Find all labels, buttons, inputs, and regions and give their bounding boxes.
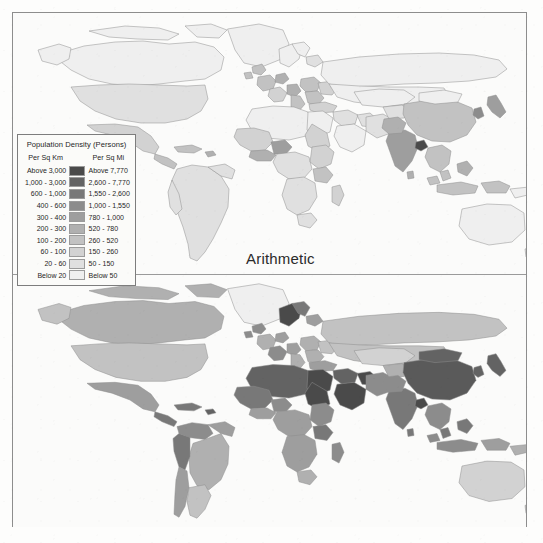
legend-value-per-sq-mi: 1,000 - 1,550	[85, 202, 131, 209]
legend-color-swatch	[69, 235, 84, 245]
legend-color-swatch	[69, 259, 84, 269]
legend-value-per-sq-mi: 260 - 520	[85, 237, 131, 244]
figure-frame: Arithmetic	[12, 12, 527, 527]
legend-row: 200 - 300520 - 780	[22, 223, 131, 235]
legend-value-per-sq-km: 20 - 60	[22, 260, 69, 267]
legend-row: 1,000 - 3,0002,600 - 7,770	[22, 177, 131, 189]
legend-value-per-sq-mi: 780 - 1,000	[85, 214, 131, 221]
legend-value-per-sq-km: 1,000 - 3,000	[22, 179, 69, 186]
legend-value-per-sq-km: 200 - 300	[22, 225, 69, 232]
legend-color-swatch	[69, 166, 84, 176]
legend-value-per-sq-mi: 150 - 260	[85, 248, 131, 255]
legend-value-per-sq-km: Below 20	[22, 272, 69, 279]
legend-row: Below 20Below 50	[22, 269, 131, 281]
legend-row: 20 - 6050 - 150	[22, 258, 131, 270]
legend-value-per-sq-mi: 1,550 - 2,600	[85, 190, 131, 197]
map-legend: Population Density (Persons) Per Sq Km P…	[17, 134, 136, 286]
world-map-physiological	[13, 275, 526, 527]
legend-value-per-sq-mi: 2,600 - 7,770	[85, 179, 131, 186]
legend-color-swatch	[69, 177, 84, 187]
legend-value-per-sq-km: 400 - 600	[22, 202, 69, 209]
legend-value-per-sq-mi: 50 - 150	[85, 260, 131, 267]
legend-color-swatch	[69, 247, 84, 257]
legend-row: 400 - 6001,000 - 1,550	[22, 200, 131, 212]
legend-header-per-sq-mi: Per Sq Mi	[86, 153, 132, 162]
legend-value-per-sq-km: Above 3,000	[22, 167, 69, 174]
legend-value-per-sq-km: 100 - 200	[22, 237, 69, 244]
legend-row: 300 - 400780 - 1,000	[22, 211, 131, 223]
legend-color-swatch	[69, 189, 84, 199]
legend-row: 60 - 100150 - 260	[22, 246, 131, 258]
legend-value-per-sq-mi: Above 7,770	[85, 167, 131, 174]
legend-rows: Above 3,000Above 7,7701,000 - 3,0002,600…	[22, 165, 131, 281]
legend-color-swatch	[69, 270, 84, 280]
legend-row: Above 3,000Above 7,770	[22, 165, 131, 177]
map-panel-physiological: Physiological	[13, 275, 526, 527]
legend-header-per-sq-km: Per Sq Km	[22, 153, 69, 162]
legend-value-per-sq-km: 600 - 1,000	[22, 190, 69, 197]
legend-color-swatch	[69, 224, 84, 234]
legend-row: 100 - 200260 - 520	[22, 235, 131, 247]
legend-title: Population Density (Persons)	[22, 140, 131, 149]
legend-row: 600 - 1,0001,550 - 2,600	[22, 188, 131, 200]
legend-value-per-sq-mi: Below 50	[85, 272, 131, 279]
figure-page: Arithmetic	[0, 0, 543, 543]
legend-value-per-sq-km: 300 - 400	[22, 214, 69, 221]
legend-header-row: Per Sq Km Per Sq Mi	[22, 153, 131, 162]
legend-color-swatch	[69, 201, 84, 211]
legend-value-per-sq-mi: 520 - 780	[85, 225, 131, 232]
panel-caption-arithmetic: Arithmetic	[246, 250, 315, 267]
legend-color-swatch	[69, 212, 84, 222]
legend-value-per-sq-km: 60 - 100	[22, 248, 69, 255]
